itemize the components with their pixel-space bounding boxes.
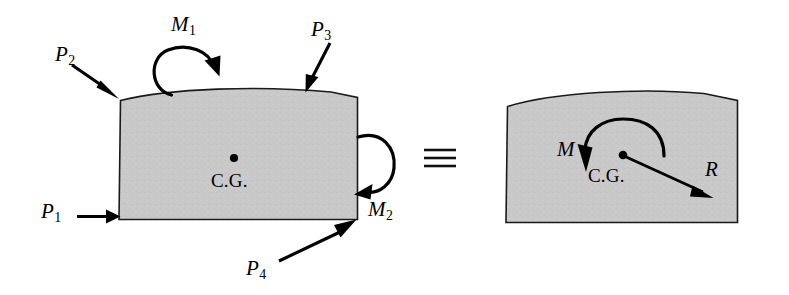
figure-canvas bbox=[0, 0, 789, 295]
left-body-shape bbox=[119, 89, 358, 220]
label-p4: P4 bbox=[246, 258, 266, 282]
label-m: M bbox=[557, 139, 575, 163]
label-left-cg: C.G. bbox=[211, 171, 248, 190]
force-arrow-p1 bbox=[77, 210, 121, 224]
label-p3: P3 bbox=[311, 19, 331, 43]
label-p2: P2 bbox=[55, 44, 75, 68]
label-r: R bbox=[705, 159, 718, 183]
force-arrow-p4 bbox=[279, 220, 357, 262]
left-body-group bbox=[72, 43, 394, 261]
right-body-group bbox=[506, 91, 738, 222]
equivalence-symbol bbox=[424, 150, 456, 166]
label-p1: P1 bbox=[41, 201, 61, 225]
label-right-cg: C.G. bbox=[588, 166, 625, 185]
moment-arc-m1 bbox=[154, 47, 220, 95]
label-m2: M2 bbox=[368, 199, 393, 223]
label-m1: M1 bbox=[171, 14, 196, 38]
force-arrow-p2 bbox=[72, 65, 119, 99]
force-arrow-p3 bbox=[306, 43, 331, 93]
left-cg-dot bbox=[230, 154, 238, 162]
moment-arc-m2 bbox=[354, 135, 394, 199]
figure-root: P1 P2 P3 P4 M1 M2 C.G. M R C.G. bbox=[0, 0, 789, 295]
